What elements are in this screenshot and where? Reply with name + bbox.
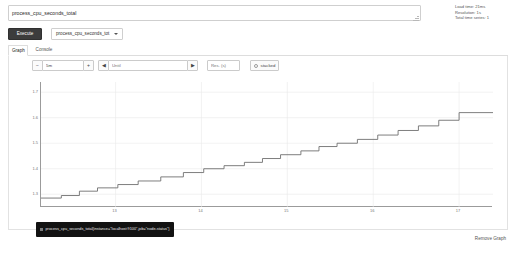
- chart-svg: [41, 82, 493, 207]
- range-decrement-button[interactable]: −: [32, 60, 43, 71]
- plot-area[interactable]: [40, 82, 492, 207]
- total-time-series-text: Total time series: 1: [455, 15, 513, 21]
- metric-select[interactable]: process_cpu_seconds_tot: [51, 28, 123, 40]
- x-axis-tick-label: 15: [284, 209, 288, 213]
- expression-input[interactable]: process_cpu_seconds_total: [8, 5, 421, 21]
- execute-button[interactable]: Execute: [8, 28, 42, 40]
- series-color-swatch: [40, 228, 43, 231]
- expression-row: process_cpu_seconds_total: [8, 5, 508, 23]
- series-tooltip: process_cpu_seconds_total{instance="loca…: [36, 222, 174, 237]
- x-axis-tick-label: 16: [370, 209, 374, 213]
- y-axis-tick-label: 1.5: [22, 141, 38, 145]
- remove-graph-link[interactable]: Remove Graph: [475, 235, 506, 243]
- checkbox-icon: [254, 64, 258, 68]
- x-axis-tick-label: 13: [112, 209, 116, 213]
- range-input[interactable]: [43, 60, 83, 71]
- y-axis-tick-label: 1.4: [22, 167, 38, 171]
- range-increment-button[interactable]: +: [83, 60, 94, 71]
- until-forward-button[interactable]: ▶: [187, 60, 198, 71]
- y-axis-tick-label: 1.6: [22, 116, 38, 120]
- resolution-group: [207, 60, 240, 71]
- y-axis-tick-label: 1.3: [22, 192, 38, 196]
- series-tooltip-text: process_cpu_seconds_total{instance="loca…: [46, 227, 170, 231]
- until-input[interactable]: [109, 60, 187, 71]
- until-group: ◀ ▶: [98, 60, 198, 71]
- tab-graph[interactable]: Graph: [8, 45, 28, 56]
- x-axis-tick-label: 17: [456, 209, 460, 213]
- chart-container: 1.31.41.51.61.7 1314151617: [22, 78, 494, 213]
- range-stepper-group: − +: [32, 60, 94, 71]
- stacked-label: stacked: [261, 61, 276, 70]
- y-axis-tick-label: 1.7: [22, 90, 38, 94]
- metric-select-value: process_cpu_seconds_tot: [56, 31, 109, 36]
- tab-bar: Graph Console: [8, 45, 508, 56]
- until-back-button[interactable]: ◀: [98, 60, 109, 71]
- stacked-toggle[interactable]: stacked: [250, 60, 279, 71]
- query-stats: Load time: 21ms Resolution: 1s Total tim…: [455, 4, 513, 21]
- resolution-input[interactable]: [207, 60, 240, 71]
- x-axis-tick-label: 14: [198, 209, 202, 213]
- prometheus-graph-page: process_cpu_seconds_total Load time: 21m…: [0, 0, 516, 258]
- chevron-down-icon: [114, 33, 118, 35]
- tab-console[interactable]: Console: [32, 45, 56, 56]
